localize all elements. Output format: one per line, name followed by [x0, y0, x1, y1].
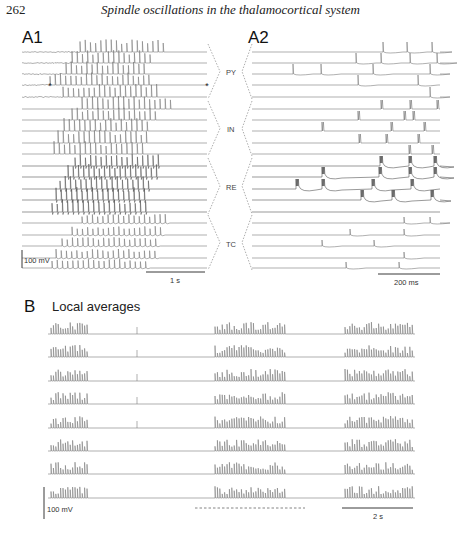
a1-trace — [22, 237, 207, 246]
a2-trace — [252, 53, 457, 64]
right-bracket — [242, 158, 252, 214]
b-trace — [48, 416, 415, 428]
a2-trace — [252, 190, 451, 202]
a1-trace — [22, 108, 207, 120]
a1-trace — [22, 164, 207, 180]
b-trace — [48, 392, 415, 404]
a2-traces — [252, 42, 457, 269]
a2-trace — [252, 145, 440, 154]
a2-trace — [252, 111, 440, 120]
a2-trace — [252, 217, 450, 224]
a2-trace — [252, 252, 440, 259]
left-bracket — [208, 44, 220, 99]
a1-trace — [22, 176, 207, 192]
a1-trace — [22, 96, 207, 109]
a2-trace — [252, 87, 450, 98]
a2-trace — [252, 179, 440, 191]
star-marker: * — [48, 81, 52, 91]
a1-traces — [22, 40, 207, 269]
right-bracket — [242, 215, 252, 270]
b-trace — [48, 322, 415, 334]
b-trace — [48, 486, 415, 498]
a2-trace — [252, 42, 452, 53]
right-bracket — [242, 44, 252, 99]
left-bracket — [208, 158, 220, 214]
left-bracket — [208, 215, 220, 270]
figure-canvas: ** — [0, 0, 461, 534]
a1-trace — [22, 154, 207, 169]
star-marker: * — [205, 81, 209, 91]
a1-trace — [22, 62, 207, 75]
a2-trace — [252, 122, 440, 131]
right-bracket — [242, 101, 252, 156]
a2-trace — [252, 229, 440, 236]
a1-trace — [22, 226, 207, 236]
a2-trace — [252, 156, 454, 168]
b-trace — [48, 369, 415, 381]
b-trace — [48, 345, 415, 357]
a1-trace — [22, 40, 207, 53]
a2-trace — [252, 134, 440, 143]
a1-trace — [22, 130, 207, 143]
a2-trace — [252, 100, 440, 109]
a2-trace — [252, 167, 454, 179]
a1-trace — [22, 214, 207, 224]
a2-trace — [252, 262, 440, 269]
b-trace — [48, 462, 415, 474]
a2-trace — [252, 240, 440, 247]
b-traces — [48, 322, 415, 498]
group-brackets — [208, 44, 252, 270]
a1-trace — [22, 259, 207, 269]
left-bracket — [208, 101, 220, 156]
scale-bars — [22, 250, 440, 519]
a2-trace — [252, 64, 450, 75]
b-trace — [48, 439, 415, 451]
a2-trace — [252, 75, 440, 86]
a1-trace — [22, 199, 207, 214]
a1-trace — [22, 249, 207, 259]
